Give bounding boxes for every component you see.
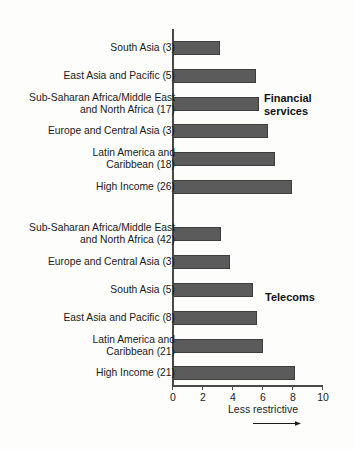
x-tick-label-8: 8 — [278, 391, 308, 403]
x-tick-4 — [232, 386, 233, 390]
label-line: High Income (21) — [10, 367, 175, 379]
label-telecoms-east-asia-pacific: East Asia and Pacific (8) — [10, 312, 175, 324]
bar-financial-europe-central-asia — [173, 124, 268, 138]
label-financial-latin-america-caribbean: Latin America and Caribbean (18) — [10, 147, 175, 170]
bar-financial-south-asia — [173, 41, 220, 55]
group-annotation-financial-services: Financial services — [264, 92, 312, 117]
label-line: Sub-Saharan Africa/Middle East — [10, 92, 175, 104]
bar-financial-latin-america-caribbean — [173, 152, 275, 166]
x-tick-0 — [172, 386, 173, 390]
bar-financial-ssa-mena — [173, 97, 259, 111]
x-tick-6 — [262, 386, 263, 390]
chart-figure: 0 2 4 6 8 10 South Asia (3) East Asia an… — [0, 0, 355, 449]
bar-telecoms-east-asia-pacific — [173, 311, 257, 325]
bar-telecoms-latin-america-caribbean — [173, 339, 263, 353]
label-line: East Asia and Pacific (5) — [10, 70, 175, 82]
x-tick-label-2: 2 — [188, 391, 218, 403]
bar-financial-high-income — [173, 180, 292, 194]
label-line: High Income (26) — [10, 181, 175, 193]
bar-telecoms-high-income — [173, 366, 295, 380]
group-annotation-telecoms: Telecoms — [265, 291, 315, 304]
label-line: and North Africa (42) — [10, 234, 175, 246]
x-tick-label-4: 4 — [218, 391, 248, 403]
label-line: and North Africa (17) — [10, 104, 175, 116]
label-telecoms-ssa-mena: Sub-Saharan Africa/Middle East and North… — [10, 222, 175, 245]
label-line: South Asia (3) — [10, 42, 175, 54]
right-arrow-icon — [253, 420, 301, 427]
label-financial-east-asia-pacific: East Asia and Pacific (5) — [10, 70, 175, 82]
label-financial-ssa-mena: Sub-Saharan Africa/Middle East and North… — [10, 92, 175, 115]
label-financial-europe-central-asia: Europe and Central Asia (3) — [10, 125, 175, 137]
label-line: Latin America and — [10, 334, 175, 346]
x-tick-8 — [292, 386, 293, 390]
label-telecoms-europe-central-asia: Europe and Central Asia (3) — [10, 256, 175, 268]
plot-area: 0 2 4 6 8 10 South Asia (3) East Asia an… — [0, 0, 355, 449]
label-line: East Asia and Pacific (8) — [10, 312, 175, 324]
label-telecoms-high-income: High Income (21) — [10, 367, 175, 379]
label-line: Europe and Central Asia (3) — [10, 256, 175, 268]
annotation-line: Financial — [264, 92, 312, 105]
bar-telecoms-ssa-mena — [173, 227, 221, 241]
label-telecoms-south-asia: South Asia (5) — [10, 284, 175, 296]
label-line: Caribbean (18) — [10, 159, 175, 171]
bar-telecoms-south-asia — [173, 283, 253, 297]
x-tick-label-6: 6 — [248, 391, 278, 403]
label-line: Europe and Central Asia (3) — [10, 125, 175, 137]
label-line: South Asia (5) — [10, 284, 175, 296]
label-telecoms-latin-america-caribbean: Latin America and Caribbean (21) — [10, 334, 175, 357]
x-tick-10 — [322, 386, 323, 390]
x-tick-2 — [202, 386, 203, 390]
annotation-line: Telecoms — [265, 291, 315, 304]
label-line: Sub-Saharan Africa/Middle East — [10, 222, 175, 234]
annotation-line: services — [264, 105, 312, 118]
label-line: Caribbean (21) — [10, 346, 175, 358]
bar-telecoms-europe-central-asia — [173, 255, 230, 269]
label-line: Latin America and — [10, 147, 175, 159]
x-axis-caption: Less restrictive — [228, 403, 298, 415]
bar-financial-east-asia-pacific — [173, 69, 256, 83]
x-tick-label-10: 10 — [308, 391, 338, 403]
label-financial-south-asia: South Asia (3) — [10, 42, 175, 54]
x-tick-label-0: 0 — [158, 391, 188, 403]
label-financial-high-income: High Income (26) — [10, 181, 175, 193]
x-axis-spine — [172, 385, 323, 387]
